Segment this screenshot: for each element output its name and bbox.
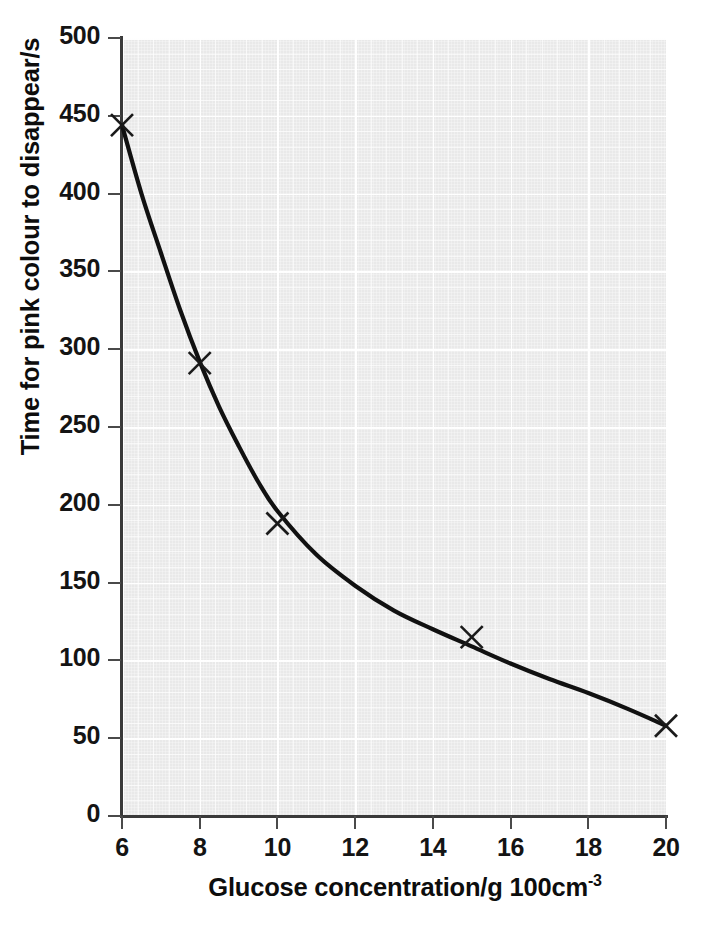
x-axis-line [120, 815, 668, 818]
x-tick-6 [121, 816, 123, 829]
x-axis-title-text: Glucose concentration/g 100cm [208, 873, 588, 901]
y-tick-label-200: 200 [0, 488, 100, 517]
y-tick-50 [108, 737, 121, 739]
x-axis-title: Glucose concentration/g 100cm-3 [122, 872, 688, 902]
y-tick-250 [108, 426, 121, 428]
y-tick-100 [108, 659, 121, 661]
y-tick-label-100: 100 [0, 643, 100, 672]
y-tick-450 [108, 115, 121, 117]
chart-figure: 050100150200250300350400450500 681012141… [0, 0, 712, 925]
x-tick-16 [510, 816, 512, 829]
x-tick-10 [276, 816, 278, 829]
x-tick-label-16: 16 [497, 833, 524, 862]
x-tick-label-12: 12 [342, 833, 369, 862]
y-tick-400 [108, 193, 121, 195]
y-tick-200 [108, 504, 121, 506]
x-tick-label-20: 20 [652, 833, 679, 862]
x-tick-18 [587, 816, 589, 829]
y-tick-300 [108, 348, 121, 350]
x-tick-12 [354, 816, 356, 829]
x-tick-label-14: 14 [419, 833, 446, 862]
x-tick-14 [432, 816, 434, 829]
y-tick-0 [108, 815, 121, 817]
x-tick-label-6: 6 [115, 833, 129, 862]
y-tick-label-0: 0 [0, 799, 100, 828]
y-tick-500 [108, 37, 121, 39]
x-axis-title-exponent: -3 [588, 872, 602, 889]
plot-area-grid [122, 38, 666, 816]
x-tick-label-18: 18 [575, 833, 602, 862]
y-tick-label-50: 50 [0, 721, 100, 750]
y-tick-label-150: 150 [0, 566, 100, 595]
x-tick-label-10: 10 [264, 833, 291, 862]
x-tick-20 [665, 816, 667, 829]
x-tick-8 [199, 816, 201, 829]
x-tick-label-8: 8 [193, 833, 207, 862]
y-axis-title: Time for pink colour to disappear/s [16, 12, 45, 482]
y-tick-350 [108, 270, 121, 272]
y-tick-150 [108, 582, 121, 584]
